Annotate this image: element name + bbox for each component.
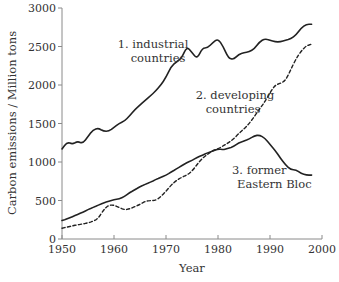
x-tick-label: 1970 (152, 243, 180, 256)
series-label-eastern-bloc: 3. former Eastern Bloc (232, 163, 312, 191)
x-tick-label: 1980 (204, 243, 232, 256)
series-label-line: 2. developing (196, 88, 275, 102)
series-line-developing-countries (62, 44, 312, 228)
y-tick-label: 2000 (28, 79, 56, 92)
series-label-line: countries (206, 102, 261, 116)
series-label-line: 1. industrial (118, 37, 189, 51)
y-ticks: 050010001500200025003000 (28, 2, 62, 246)
line-chart: 050010001500200025003000 195019601970198… (0, 0, 339, 282)
series-label-line: 3. former (232, 163, 287, 177)
y-tick-label: 500 (35, 195, 56, 208)
x-tick-label: 2000 (308, 243, 336, 256)
series-lines (62, 24, 312, 228)
series-label-industrial: 1. industrial countries (118, 37, 189, 65)
y-axis-title: Carbon emissions / Million tons (5, 31, 19, 215)
series-label-line: Eastern Bloc (237, 177, 312, 191)
y-tick-label: 1000 (28, 156, 56, 169)
x-axis-title: Year (178, 261, 205, 275)
series-label-line: countries (131, 51, 186, 65)
y-tick-label: 1500 (28, 118, 56, 131)
x-tick-label: 1950 (48, 243, 76, 256)
y-tick-label: 3000 (28, 2, 56, 15)
series-label-developing: 2. developing countries (196, 88, 275, 116)
x-tick-label: 1990 (256, 243, 284, 256)
x-tick-label: 1960 (100, 243, 128, 256)
x-ticks: 195019601970198019902000 (48, 235, 336, 256)
chart-canvas: 050010001500200025003000 195019601970198… (0, 0, 339, 282)
y-tick-label: 2500 (28, 41, 56, 54)
